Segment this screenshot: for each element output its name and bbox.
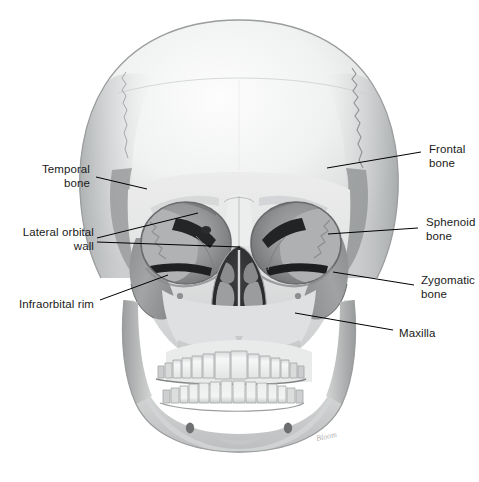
- tooth-upper-central-right: [231, 351, 247, 379]
- label-lateral-orbital-wall: Lateral orbital wall: [8, 225, 94, 253]
- tooth-lower-premolar-left-2: [180, 386, 188, 403]
- tooth-lower-molar-right-2: [296, 390, 303, 403]
- tooth-upper-canine-left: [192, 356, 202, 378]
- tooth-upper-premolar-right-1: [271, 358, 280, 378]
- mental-foramen-left: [186, 423, 194, 434]
- mental-foramen-right: [284, 423, 292, 434]
- tooth-upper-molar-left: [165, 363, 172, 378]
- tooth-upper-premolar-left-2: [173, 360, 181, 378]
- tooth-upper-molar-left-2: [158, 366, 164, 378]
- dentition-group: [156, 340, 312, 411]
- label-zygomatic-bone: Zygomatic bone: [421, 273, 479, 301]
- tooth-upper-central-left: [215, 352, 230, 379]
- tooth-upper-molar-right: [290, 363, 297, 378]
- tooth-lower-lateral-left: [210, 382, 220, 403]
- tooth-upper-lateral-right: [248, 354, 259, 378]
- mandible-ramus-right: [326, 300, 356, 404]
- tooth-upper-premolar-left-1: [182, 358, 191, 378]
- tooth-lower-molar-right: [287, 388, 295, 403]
- tooth-lower-central-left: [221, 381, 232, 403]
- tooth-upper-molar-right-2: [298, 366, 304, 378]
- infraorbital-foramen-left: [177, 293, 183, 299]
- tooth-lower-premolar-right-2: [278, 386, 286, 403]
- label-infraorbital-rim: Infraorbital rim: [10, 297, 94, 311]
- label-maxilla: Maxilla: [399, 326, 447, 340]
- label-temporal-bone: Temporal bone: [16, 162, 90, 190]
- tooth-lower-molar-left-2: [163, 390, 170, 403]
- anatomy-figure: Temporal bone Lateral orbital wall Infra…: [0, 0, 479, 482]
- tooth-upper-premolar-right-2: [281, 360, 289, 378]
- tooth-lower-canine-right: [257, 383, 267, 403]
- tooth-lower-molar-left: [171, 388, 179, 403]
- tooth-lower-premolar-right-1: [268, 384, 277, 403]
- tooth-lower-central-right: [233, 381, 245, 403]
- tooth-upper-canine-right: [260, 356, 270, 378]
- label-sphenoid-bone: Sphenoid bone: [426, 215, 479, 243]
- tooth-lower-premolar-left-1: [189, 384, 198, 403]
- lower-teeth: [163, 381, 303, 403]
- mandible-ramus-left: [123, 300, 153, 404]
- tooth-lower-lateral-right: [246, 382, 256, 403]
- tooth-lower-canine-left: [199, 383, 209, 403]
- label-frontal-bone: Frontal bone: [429, 142, 479, 170]
- infraorbital-foramen-right: [295, 293, 301, 299]
- lower-gingival-line: [160, 403, 304, 411]
- tooth-upper-lateral-left: [203, 354, 214, 378]
- orbit-left-optic-foramen: [201, 226, 211, 234]
